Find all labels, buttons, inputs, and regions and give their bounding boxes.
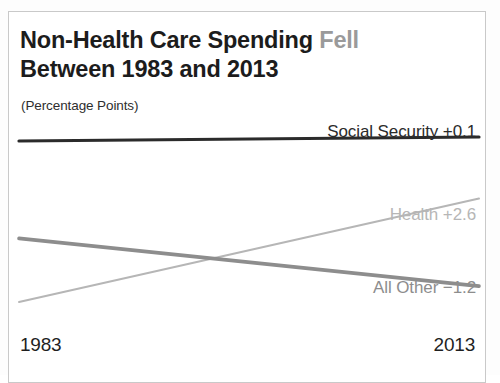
- axis-tick-label-start-year: 1983: [20, 334, 61, 356]
- chart-subtitle: (Percentage Points): [21, 98, 138, 113]
- chart-title-block: Non-Health Care Spending Fell Between 19…: [20, 26, 472, 84]
- title-accent-text: Fell: [319, 27, 359, 53]
- page-title-line-2: Between 1983 and 2013: [20, 55, 472, 84]
- series-label-social-security: Social Security +0.1: [327, 122, 476, 142]
- page-title-line-1: Non-Health Care Spending Fell: [20, 26, 472, 55]
- series-label-all-other: All Other −1.2: [373, 278, 476, 298]
- chart-card: Non-Health Care Spending Fell Between 19…: [8, 11, 486, 383]
- series-label-health: Health +2.6: [390, 205, 476, 225]
- axis-tick-label-end-year: 2013: [434, 334, 475, 356]
- title-main-text: Non-Health Care Spending: [20, 27, 313, 53]
